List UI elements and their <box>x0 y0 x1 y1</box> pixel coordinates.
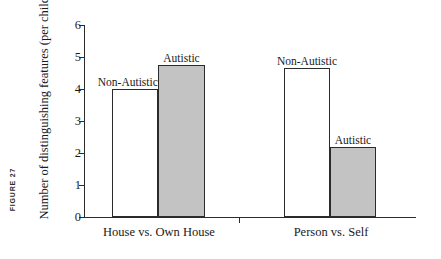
plot-area: 0 1 2 3 4 5 6 Non-Autistic <box>84 25 416 217</box>
bar-house-autistic: Autistic <box>158 65 205 217</box>
bar-house-non-autistic: Non-Autistic <box>112 89 158 217</box>
bar-label-person-non-autistic: Non-Autistic <box>277 55 337 67</box>
x-axis-group-label-person: Person vs. Self <box>294 225 369 240</box>
y-tick-label-1: 1 <box>75 179 81 192</box>
y-tick-label-2: 2 <box>75 147 81 160</box>
y-tick-label-3: 3 <box>75 115 81 128</box>
y-tick-label-6: 6 <box>75 19 81 32</box>
figure-27-chart: FIGURE 27 Number of distinguishing featu… <box>0 0 441 259</box>
bar-person-non-autistic: Non-Autistic <box>284 68 330 217</box>
bar-label-house-autistic: Autistic <box>163 52 199 64</box>
y-tick-label-5: 5 <box>75 51 81 64</box>
x-axis-group-label-house: House vs. Own House <box>103 225 215 240</box>
bar-label-house-non-autistic: Non-Autistic <box>98 76 158 88</box>
bar-label-person-autistic: Autistic <box>335 134 371 146</box>
y-tick-label-0: 0 <box>75 211 81 224</box>
y-tick-label-4: 4 <box>75 83 81 96</box>
bar-person-autistic: Autistic <box>330 147 376 217</box>
figure-caption: FIGURE 27 <box>9 162 16 218</box>
x-axis-line <box>84 217 416 218</box>
group-separator-tick <box>239 217 240 223</box>
y-axis-line <box>84 25 85 217</box>
y-axis-title: Number of distinguishing features (per c… <box>37 12 52 220</box>
